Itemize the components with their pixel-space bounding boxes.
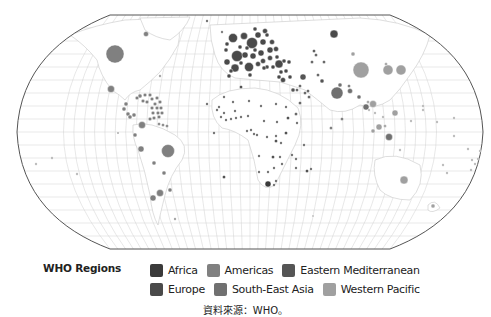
country-bubble (382, 116, 384, 118)
country-bubble (351, 52, 355, 56)
country-bubble (275, 60, 283, 68)
country-bubble (267, 171, 269, 173)
country-bubble (285, 106, 287, 108)
country-bubble (213, 132, 215, 134)
country-bubble (232, 101, 234, 103)
legend-item-western-pacific: Western Pacific (323, 283, 420, 296)
country-bubble (474, 163, 476, 165)
country-bubble (224, 48, 228, 52)
country-bubble (150, 97, 154, 101)
country-bubble (287, 60, 291, 64)
country-bubble (256, 134, 258, 136)
country-bubble (300, 74, 306, 80)
country-bubble (258, 50, 264, 56)
country-bubble (295, 167, 297, 169)
country-bubble (291, 154, 293, 156)
country-bubble (279, 70, 283, 74)
country-bubble (376, 124, 382, 130)
country-bubble (157, 190, 164, 197)
country-bubble (281, 78, 286, 83)
country-bubble (275, 140, 278, 143)
country-bubble (206, 20, 208, 22)
legend-label-western-pacific: Western Pacific (341, 283, 420, 296)
country-bubble (139, 122, 146, 129)
country-bubble (479, 150, 481, 152)
legend-label-europe: Europe (168, 283, 205, 296)
legend-label-south-east-asia: South-East Asia (232, 283, 314, 296)
legend-item-eastern-mediterranean: Eastern Mediterranean (282, 264, 419, 277)
country-bubble (138, 146, 144, 152)
country-bubble (296, 122, 298, 124)
country-bubble (477, 158, 479, 160)
country-bubble (168, 188, 172, 192)
country-bubble (383, 65, 393, 75)
country-bubble (240, 86, 243, 89)
country-bubble (151, 111, 155, 115)
country-bubble (320, 79, 324, 83)
country-bubble (250, 129, 252, 131)
legend-item-south-east-asia: South-East Asia (214, 283, 314, 296)
country-bubble (368, 109, 370, 111)
country-bubble (159, 106, 163, 110)
country-bubble (471, 159, 473, 161)
country-bubble (253, 133, 255, 135)
country-bubble (371, 129, 375, 133)
country-bubble (348, 85, 351, 88)
country-bubble (106, 45, 124, 63)
country-bubble (263, 29, 268, 34)
country-bubble (262, 66, 266, 70)
country-bubble (271, 65, 275, 69)
country-bubble (276, 121, 278, 123)
country-bubble (274, 47, 279, 52)
swatch-western-pacific (323, 283, 336, 296)
country-bubble (158, 123, 161, 126)
country-bubble (258, 171, 260, 173)
country-bubble (223, 96, 225, 98)
country-bubble (442, 164, 444, 166)
country-bubble (453, 117, 455, 119)
country-bubble (312, 215, 314, 217)
swatch-americas (207, 264, 220, 277)
country-bubble (386, 134, 393, 141)
country-bubble (287, 117, 290, 120)
country-bubble (253, 27, 257, 31)
country-bubble (162, 124, 165, 127)
country-bubble (218, 106, 220, 108)
country-bubble (268, 56, 273, 61)
country-bubble (216, 109, 218, 111)
country-bubble (353, 62, 369, 78)
country-bubble (117, 132, 119, 134)
country-bubble (299, 102, 302, 105)
country-bubble (308, 96, 311, 99)
country-bubble (266, 136, 268, 138)
legend-row-1: Africa Americas Eastern Mediterranean (150, 261, 450, 280)
country-bubble (284, 69, 288, 73)
country-bubble (453, 135, 455, 137)
source-caption: 資料來源：WHO。 (0, 302, 491, 317)
swatch-europe (150, 283, 163, 296)
country-bubble (256, 62, 261, 67)
country-bubble (330, 30, 338, 38)
country-bubble (76, 173, 78, 175)
country-bubble (241, 33, 248, 40)
country-bubble (152, 116, 156, 120)
legend-title: WHO Regions (43, 262, 121, 274)
swatch-eastern-mediterranean (282, 264, 295, 277)
country-bubble (385, 63, 388, 66)
country-bubble (367, 101, 370, 104)
country-bubble (248, 100, 250, 102)
country-bubble (303, 144, 305, 146)
country-bubble (282, 59, 286, 63)
country-bubble (296, 89, 299, 92)
legend-row-2: Europe South-East Asia Western Pacific (150, 280, 450, 299)
legend-label-eastern-mediterranean: Eastern Mediterranean (300, 264, 419, 277)
country-bubble (446, 172, 448, 174)
country-bubble (166, 125, 169, 128)
country-bubble (392, 110, 398, 116)
country-bubble (260, 39, 266, 45)
country-bubble (156, 111, 160, 115)
country-bubble (150, 195, 156, 201)
country-bubble (240, 116, 242, 118)
country-bubble (174, 218, 176, 220)
country-bubble (357, 95, 361, 99)
